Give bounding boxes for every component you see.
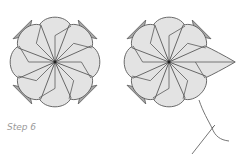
diagram-canvas — [0, 0, 249, 162]
center-dot — [54, 61, 57, 64]
center-dot — [168, 61, 171, 64]
needle-line — [192, 126, 214, 154]
step-label: Step 6 — [7, 122, 36, 132]
flower-before — [10, 17, 100, 107]
needle-eye — [212, 125, 215, 128]
thread-line — [199, 100, 229, 141]
flower-after — [124, 17, 235, 107]
